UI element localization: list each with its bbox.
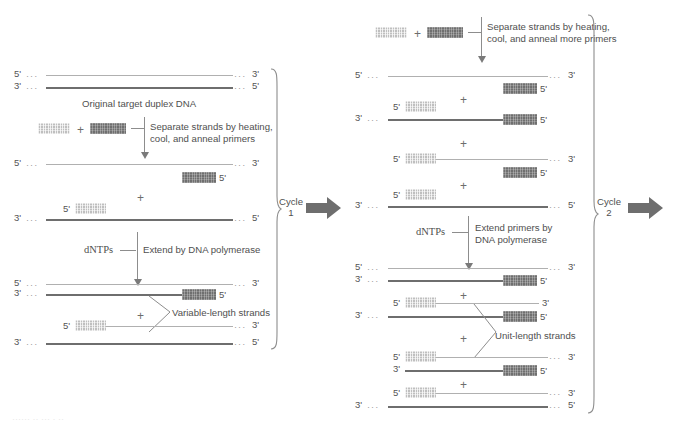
end-label-3p: 3' (252, 69, 259, 79)
cycle-word: Cycle (279, 196, 303, 207)
end-label-3p: 3' (355, 200, 362, 210)
plus-sign: + (460, 290, 467, 302)
process-arrow-extend (137, 232, 138, 280)
strand-dots-right: ··· (234, 323, 246, 332)
strand-dots-right: ··· (549, 354, 561, 363)
strand-dots-left: ··· (367, 265, 379, 274)
end-label-3p: 3' (568, 154, 575, 164)
cycle-number: 2 (606, 207, 611, 218)
strand-dots-left: ··· (367, 403, 379, 412)
cycle-number: 1 (288, 207, 293, 218)
process-arrow-extend (468, 216, 469, 264)
primer-light-block (38, 123, 70, 134)
cycle-word: Cycle (597, 196, 621, 207)
primer-dark-annealed (503, 167, 537, 178)
unit-length-note: Unit-length strands (495, 330, 576, 343)
strand-line (436, 357, 548, 358)
primer-light-extended (405, 387, 436, 398)
plus-sign: + (414, 28, 421, 40)
process-arrow-separate (144, 117, 145, 153)
end-label-5p: 5' (393, 352, 400, 362)
plus-sign: + (460, 379, 467, 391)
end-label-5p: 5' (63, 321, 70, 331)
end-label-3p: 3' (542, 298, 549, 308)
primer-dark-extended (503, 365, 537, 376)
plus-sign: + (137, 310, 144, 322)
primer-connector-line (468, 32, 482, 33)
end-label-5p: 5' (393, 190, 400, 200)
strand-line (388, 119, 504, 121)
strand-dots-right: ··· (549, 390, 561, 399)
strand-dots-left: ··· (26, 281, 38, 290)
end-label-5p: 5' (540, 312, 547, 322)
end-label-3p: 3' (14, 213, 21, 223)
strand-dots-right: ··· (549, 403, 561, 412)
end-label-3p: 3' (568, 388, 575, 398)
strand-dots-right: ··· (549, 156, 561, 165)
end-label-5p: 5' (393, 154, 400, 164)
end-label-5p: 5' (219, 290, 226, 300)
plus-sign: + (460, 333, 467, 345)
end-label-3p: 3' (252, 278, 259, 288)
end-label-5p: 5' (393, 388, 400, 398)
strand-line (388, 76, 548, 77)
end-label-3p: 3' (355, 400, 362, 410)
reagent-dntps: dNTPs (416, 226, 445, 239)
end-label-3p: 3' (355, 274, 362, 284)
step-separate-text-line2: cool, and anneal primers (150, 133, 255, 146)
end-label-5p: 5' (540, 168, 547, 178)
primer-dark-extended (503, 275, 537, 286)
end-label-3p: 3' (14, 81, 21, 91)
plus-sign: + (137, 192, 144, 204)
primer-dark-annealed (503, 83, 537, 94)
primer-light-extended (405, 297, 436, 308)
strand-dots-left: ··· (367, 203, 379, 212)
end-label-5p: 5' (393, 102, 400, 112)
strand-dots-right: ··· (234, 161, 246, 170)
primer-dark-block (90, 123, 126, 134)
primer-light-annealed (405, 189, 436, 200)
end-label-5p: 5' (14, 69, 21, 79)
strand-dots-left: ··· (367, 116, 379, 125)
strand-dots-right: ··· (234, 216, 246, 225)
strand-line (388, 206, 548, 208)
end-label-3p: 3' (393, 364, 400, 374)
strand-line (436, 159, 548, 160)
end-label-5p: 5' (63, 204, 70, 214)
strand-template-top (46, 164, 233, 165)
end-label-5p: 5' (355, 262, 362, 272)
panel-cycle-1: 5' ··· ··· 3' 3' ··· ··· 5' Original tar… (0, 0, 300, 423)
primer-light-annealed (405, 153, 436, 164)
primer-dark-block (427, 27, 463, 38)
end-label-3p: 3' (252, 158, 259, 168)
strand-dots-right: ··· (234, 72, 246, 81)
strand-dots-left: ··· (26, 216, 38, 225)
strand-dots-right: ··· (234, 281, 246, 290)
end-label-3p: 3' (568, 262, 575, 272)
strand-dots-left: ··· (26, 340, 38, 349)
plus-sign: + (460, 180, 467, 192)
strand-dots-left: ··· (26, 291, 38, 300)
step-extend-text-line1: Extend primers by (475, 222, 552, 235)
end-label-5p: 5' (14, 158, 21, 168)
strand-line (388, 280, 504, 282)
end-label-3p: 3' (14, 337, 21, 347)
strand-product-bottom2 (46, 343, 233, 345)
panel-cycle-2: + Separate strands by heating, cool, and… (340, 0, 677, 423)
end-label-3p: 3' (252, 320, 259, 330)
strand-line (405, 370, 504, 372)
footer-cut-caption: ······ ·· ··· · ·· (12, 414, 242, 423)
strand-top (46, 75, 233, 76)
end-label-5p: 5' (252, 81, 259, 91)
reagent-dntps: dNTPs (84, 244, 113, 257)
strand-dots-right: ··· (549, 73, 561, 82)
step-extend-text: Extend by DNA polymerase (143, 244, 260, 257)
strand-dots-right: ··· (549, 265, 561, 274)
end-label-5p: 5' (540, 276, 547, 286)
strand-dots-left: ··· (367, 277, 379, 286)
figure-canvas: 5' ··· ··· 3' 3' ··· ··· 5' Original tar… (0, 0, 677, 423)
primer-dark-annealed (182, 172, 216, 183)
strand-dots-right: ··· (549, 203, 561, 212)
end-label-5p: 5' (568, 400, 575, 410)
end-label-5p: 5' (393, 298, 400, 308)
